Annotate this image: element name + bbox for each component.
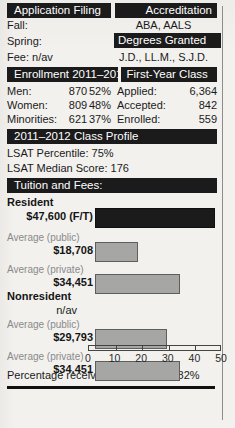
row-fall-accreditation: Fall: ABA, AALS bbox=[7, 18, 217, 33]
tuition-bar-chart: Resident $47,600 (F/T) Average (public) … bbox=[7, 194, 217, 366]
header-row-enrollment-firstyear: Enrollment 2011–2012 First-Year Class bbox=[7, 67, 217, 82]
enrollment-men-count: 870 bbox=[59, 84, 87, 98]
section-heading-degrees-granted: Degrees Granted bbox=[114, 33, 221, 48]
row-spring-degrees-heading: Spring: Degrees Granted bbox=[7, 33, 217, 50]
firstyear-applied-value: 6,364 bbox=[173, 84, 217, 98]
chart-value-resident-fulltime: $47,600 (F/T) bbox=[7, 210, 93, 222]
chart-value-nonresident-fulltime: n/av bbox=[7, 304, 77, 316]
application-fee-label: Fee: n/av bbox=[7, 50, 110, 65]
header-row-class-profile: 2011–2012 Class Profile bbox=[7, 129, 217, 144]
enrollment-minorities-label: Minorities: bbox=[7, 112, 59, 126]
section-heading-enrollment: Enrollment 2011–2012 bbox=[7, 67, 118, 82]
enrollment-women-label: Women: bbox=[7, 98, 59, 112]
chart-x-tick-label: 40 bbox=[189, 352, 201, 364]
enrollment-men-percent: 52% bbox=[87, 84, 113, 98]
chart-value-resident-private: $34,451 bbox=[7, 276, 93, 288]
chart-bar-resident-fulltime bbox=[95, 208, 215, 228]
table-row: Women: 809 48% Accepted: 842 bbox=[7, 98, 217, 112]
degrees-granted-heading-cell: Degrees Granted bbox=[110, 33, 217, 50]
degrees-granted-value: J.D., LL.M., S.J.D. bbox=[110, 50, 217, 65]
chart-x-tick-label: 0 bbox=[85, 352, 91, 364]
lsat-median-score-text: LSAT Median Score: 176 bbox=[7, 161, 217, 176]
header-row-tuition: Tuition and Fees: bbox=[7, 178, 217, 193]
firstyear-applied-label: Applied: bbox=[113, 84, 173, 98]
chart-x-tick-label: 50 bbox=[215, 352, 227, 364]
lsat-percentile-text: LSAT Percentile: 75% bbox=[7, 146, 217, 161]
chart-sublabel-resident-public: Average (public) bbox=[7, 232, 93, 243]
chart-group-label-resident: Resident bbox=[7, 196, 93, 208]
bottom-rule bbox=[7, 386, 215, 389]
chart-value-nonresident-public: $29,793 bbox=[7, 331, 93, 343]
header-row-application-accreditation: Application Filing Accreditation bbox=[7, 3, 217, 18]
chart-sublabel-nonresident-public: Average (public) bbox=[7, 319, 93, 330]
table-row: Men: 870 52% Applied: 6,364 bbox=[7, 84, 217, 98]
chart-bar-resident-public bbox=[95, 242, 138, 262]
enrollment-women-count: 809 bbox=[59, 98, 87, 112]
firstyear-enrolled-label: Enrolled: bbox=[113, 112, 173, 126]
panel-content: Application Filing Accreditation Fall: A… bbox=[7, 0, 217, 389]
firstyear-accepted-value: 842 bbox=[173, 98, 217, 112]
application-fall-label: Fall: bbox=[7, 18, 110, 33]
chart-x-tick-label: 20 bbox=[135, 352, 147, 364]
section-heading-class-profile: 2011–2012 Class Profile bbox=[7, 129, 217, 144]
chart-bar-resident-private bbox=[95, 274, 180, 294]
section-heading-first-year-class: First-Year Class bbox=[121, 67, 217, 82]
section-heading-application-filing: Application Filing bbox=[7, 3, 111, 18]
section-heading-accreditation: Accreditation bbox=[115, 3, 217, 18]
law-school-data-panel: Application Filing Accreditation Fall: A… bbox=[0, 0, 235, 428]
enrollment-men-label: Men: bbox=[7, 84, 59, 98]
accreditation-value: ABA, AALS bbox=[110, 18, 217, 33]
enrollment-minorities-count: 621 bbox=[59, 112, 87, 126]
chart-value-nonresident-private: $34,451 bbox=[7, 363, 93, 375]
chart-group-label-nonresident: Nonresident bbox=[7, 290, 93, 302]
chart-sublabel-nonresident-private: Average (private) bbox=[7, 351, 93, 362]
section-heading-tuition-and-fees: Tuition and Fees: bbox=[7, 178, 217, 193]
chart-x-tick-label: 10 bbox=[109, 352, 121, 364]
row-fee-degrees-value: Fee: n/av J.D., LL.M., S.J.D. bbox=[7, 50, 217, 65]
enrollment-minorities-percent: 37% bbox=[87, 112, 113, 126]
chart-x-axis-top-rule bbox=[88, 345, 221, 346]
application-spring-label: Spring: bbox=[7, 33, 110, 50]
firstyear-enrolled-value: 559 bbox=[173, 112, 217, 126]
chart-x-tick-label: 30 bbox=[162, 352, 174, 364]
chart-bar-nonresident-private bbox=[95, 361, 180, 381]
firstyear-accepted-label: Accepted: bbox=[113, 98, 173, 112]
chart-value-resident-public: $18,708 bbox=[7, 244, 93, 256]
chart-sublabel-resident-private: Average (private) bbox=[7, 264, 93, 275]
enrollment-women-percent: 48% bbox=[87, 98, 113, 112]
table-row: Minorities: 621 37% Enrolled: 559 bbox=[7, 112, 217, 126]
